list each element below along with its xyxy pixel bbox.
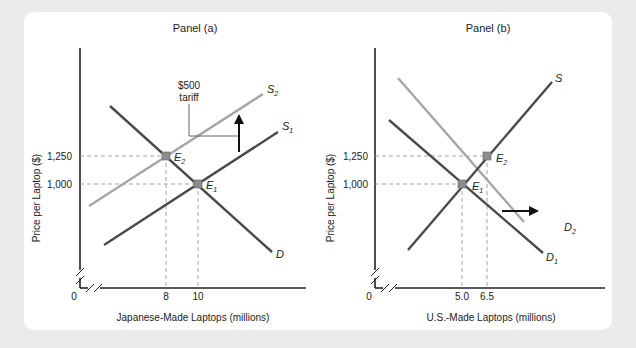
equilibrium-point-e1: [194, 180, 202, 188]
supply-curve-s: [408, 82, 552, 250]
panel-b-ytick-1250: 1,250: [343, 151, 368, 162]
panel-a-ytick-1000: 1,000: [47, 179, 72, 190]
panel-b-origin-label: 0: [366, 291, 372, 302]
label-s: S: [555, 72, 563, 84]
demand-curve-d: [110, 106, 272, 252]
panel-a-origin-label: 0: [71, 291, 77, 302]
tariff-label-word: tariff: [179, 92, 198, 103]
label-e2: E2: [174, 151, 185, 165]
panel-a-ytick-1250: 1,250: [47, 151, 72, 162]
panel-a-title: Panel (a): [173, 22, 218, 34]
panel-b-y-axis-label: Price per Laptop ($): [325, 154, 336, 242]
tariff-label-amount: $500: [178, 80, 201, 91]
label-s2: S2: [267, 83, 278, 97]
equilibrium-point-e2: [483, 152, 491, 160]
supply-curve-s1: [104, 132, 278, 245]
panel-b: Panel (b) Price per Laptop ($) 0 1,250 1…: [325, 22, 605, 323]
label-e1: E1: [472, 180, 483, 194]
panel-a-x-axis-label: Japanese-Made Laptops (millions): [117, 312, 270, 323]
label-d2: D2: [564, 221, 576, 235]
label-e1: E1: [206, 179, 217, 193]
panel-b-title: Panel (b): [466, 22, 511, 34]
panel-b-xtick-5: 5.0: [455, 291, 469, 302]
demand-curve-d2: [398, 78, 524, 222]
panel-b-ytick-1000: 1,000: [343, 179, 368, 190]
panel-a-xtick-8: 8: [163, 291, 169, 302]
panel-a-xtick-10: 10: [192, 291, 204, 302]
label-d: D: [276, 248, 284, 260]
panel-a-y-axis-label: Price per Laptop ($): [31, 154, 42, 242]
label-s1: S1: [282, 120, 293, 134]
panel-a: Panel (a) Price per Laptop ($) 0 1,250 1…: [31, 22, 306, 323]
label-d1: D1: [546, 251, 558, 265]
equilibrium-point-e1: [458, 180, 466, 188]
label-e2: E2: [496, 152, 507, 166]
panel-b-x-axis-label: U.S.-Made Laptops (millions): [427, 312, 556, 323]
panel-b-xtick-6-5: 6.5: [480, 291, 494, 302]
equilibrium-point-e2: [162, 152, 170, 160]
tariff-bracket: [189, 104, 238, 136]
figure-svg: Panel (a) Price per Laptop ($) 0 1,250 1…: [0, 0, 636, 348]
